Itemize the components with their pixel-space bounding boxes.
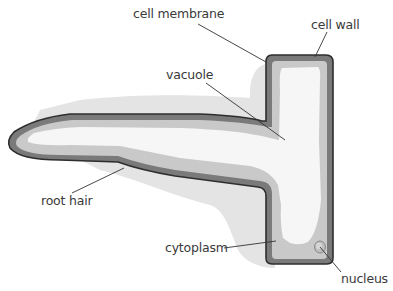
label-root-hair: root hair <box>41 193 92 208</box>
leader-line-root-hair <box>72 168 124 193</box>
label-cell-membrane: cell membrane <box>133 6 224 21</box>
label-vacuole: vacuole <box>166 67 213 82</box>
leader-line-cell-membrane <box>198 24 266 62</box>
leader-line-cell-wall <box>315 32 327 57</box>
label-cytoplasm: cytoplasm <box>165 240 228 255</box>
label-nucleus: nucleus <box>341 271 388 286</box>
label-cell-wall: cell wall <box>311 17 360 32</box>
